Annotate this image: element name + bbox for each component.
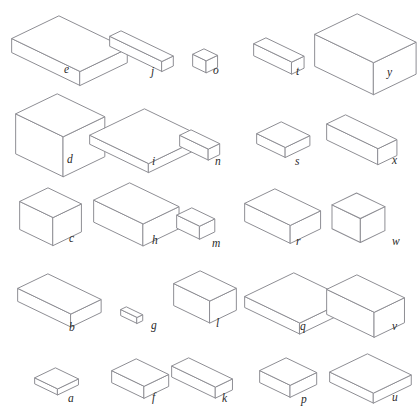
shape-label-w: w xyxy=(392,236,400,248)
shape-label-t: t xyxy=(296,66,299,78)
shape-label-s: s xyxy=(295,156,299,168)
shape-label-x: x xyxy=(392,155,397,167)
shape-label-a: a xyxy=(68,393,74,405)
shape-label-e: e xyxy=(64,64,69,76)
shape-label-h: h xyxy=(152,235,158,247)
block-shape-y[interactable] xyxy=(313,12,418,97)
shape-label-v: v xyxy=(392,321,397,333)
shape-label-f: f xyxy=(152,392,155,404)
shape-label-u: u xyxy=(392,392,398,404)
shape-label-j: j xyxy=(151,66,154,78)
shape-label-b: b xyxy=(69,322,75,334)
shape-label-i: i xyxy=(152,156,155,168)
shape-label-r: r xyxy=(296,236,300,248)
shape-label-k: k xyxy=(222,393,227,405)
block-drawing-b xyxy=(16,272,103,329)
block-shape-f[interactable] xyxy=(110,357,171,400)
shape-label-l: l xyxy=(216,318,219,330)
block-drawing-s xyxy=(255,120,312,159)
block-drawing-m xyxy=(175,206,217,241)
block-shape-j[interactable] xyxy=(108,29,175,73)
cutoff-header-text: · · ··· · xyxy=(0,0,420,2)
block-drawing-u xyxy=(328,352,413,405)
stimulus-sheet: · · ··· · ejotydinsxchmrwbglqvafkpu xyxy=(0,0,420,407)
shape-label-g: g xyxy=(151,320,157,332)
block-shape-b[interactable] xyxy=(16,272,103,329)
block-drawing-g xyxy=(119,305,145,325)
block-shape-r[interactable] xyxy=(243,187,323,245)
block-shape-p[interactable] xyxy=(258,356,319,399)
block-shape-h[interactable] xyxy=(92,181,181,248)
block-shape-g[interactable] xyxy=(119,305,145,325)
block-drawing-w xyxy=(330,191,387,244)
block-drawing-x xyxy=(325,113,399,167)
shape-label-o: o xyxy=(213,65,219,77)
shape-label-c: c xyxy=(69,233,74,245)
block-drawing-l xyxy=(172,269,238,325)
block-drawing-p xyxy=(258,356,319,399)
shape-label-n: n xyxy=(215,156,221,168)
shape-label-p: p xyxy=(301,394,307,406)
shape-label-q: q xyxy=(300,321,306,333)
block-shape-x[interactable] xyxy=(325,113,399,167)
shape-label-d: d xyxy=(67,154,73,166)
block-shape-m[interactable] xyxy=(175,206,217,241)
block-drawing-y xyxy=(313,12,418,97)
block-shape-u[interactable] xyxy=(328,352,413,405)
block-drawing-j xyxy=(108,29,175,73)
block-drawing-f xyxy=(110,357,171,400)
block-drawing-r xyxy=(243,187,323,245)
shape-label-m: m xyxy=(212,238,220,250)
block-shape-w[interactable] xyxy=(330,191,387,244)
block-shape-l[interactable] xyxy=(172,269,238,325)
block-shape-s[interactable] xyxy=(255,120,312,159)
block-drawing-h xyxy=(92,181,181,248)
shape-label-y: y xyxy=(387,67,392,79)
